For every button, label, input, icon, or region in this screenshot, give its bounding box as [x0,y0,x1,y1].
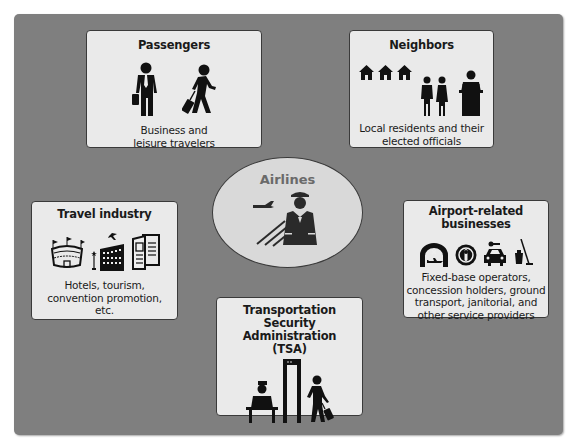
security-officer-icon [245,379,279,423]
pilot-airplane-icon [243,189,333,249]
janitorial-icon [513,239,533,267]
couple-icon [419,76,451,116]
hotel-icon [90,231,126,271]
travel-industry-description: Hotels, tourism, convention promotion, e… [32,279,177,317]
tsa-box: Transportation Security Administration (… [216,297,363,416]
airport-businesses-description: Fixed-base operators, concession holders… [404,271,548,321]
hangar-icon [419,243,449,267]
taxi-icon [483,241,507,267]
house-icon [358,64,375,81]
neighbors-description: Local residents and their elected offici… [350,122,493,147]
travel-industry-title: Travel industry [32,208,177,221]
tsa-title: Transportation Security Administration (… [217,304,362,356]
official-at-podium-icon [457,70,485,116]
passengers-box: Passengers Business and leisure traveler… [86,30,262,148]
neighbors-box: Neighbors Local residents and their elec… [349,30,494,148]
traveler-with-luggage-icon [182,62,216,118]
stadium-icon [49,237,85,271]
airlines-center-oval: Airlines [212,157,363,268]
travel-industry-box: Travel industry Hotels, [31,201,178,320]
traveler-with-luggage-icon [305,375,335,423]
passengers-title: Passengers [87,39,261,52]
passengers-description: Business and leisure travelers [87,124,261,149]
airport-businesses-box: Airport-related businesses Fixed-ba [403,200,549,318]
brochure-icon [131,233,161,271]
neighbors-title: Neighbors [350,39,493,52]
airport-businesses-title: Airport-related businesses [404,205,548,231]
house-icon [396,64,413,81]
concession-icon [455,243,477,267]
businessman-icon [132,62,158,118]
airlines-label: Airlines [213,172,362,187]
metal-detector-icon [283,359,301,423]
house-icon [377,64,394,81]
